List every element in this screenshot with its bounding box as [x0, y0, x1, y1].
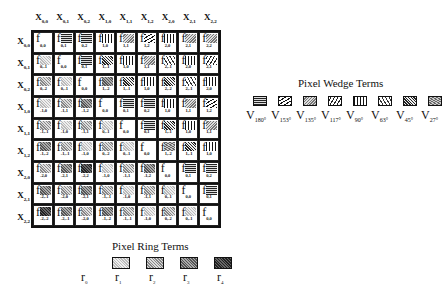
matrix-cell: f0,-1	[178, 205, 198, 226]
matrix-cell: f0,0	[95, 97, 115, 118]
wedge-label: V153°	[271, 108, 291, 123]
matrix-cell: f-2,2	[75, 162, 95, 183]
label-subscript: -1,1	[82, 129, 89, 134]
label-subscript: -2,1	[82, 194, 89, 199]
label-subscript: -1,0	[144, 216, 151, 221]
cell-term: f-2,0	[78, 206, 89, 224]
ring-label: r1	[115, 270, 122, 285]
matrix-cell: f-2,1	[75, 184, 95, 205]
label-subscript: 45°	[405, 117, 413, 123]
wedge-label: V135°	[296, 108, 316, 123]
cell-term: f1,2	[202, 97, 212, 115]
label-subscript: 2,-1	[165, 64, 172, 69]
matrix-cell: f0,-1	[33, 54, 53, 75]
label-subscript: 63°	[380, 117, 388, 123]
row-header: X1,0	[4, 102, 30, 114]
label-subscript: 2,1	[189, 19, 195, 24]
label-subscript: -1,-1	[102, 194, 111, 199]
matrix-cell: f1,-1	[178, 140, 198, 161]
matrix-cell: f2,-1	[178, 75, 198, 96]
wedge-label: V90°	[346, 108, 363, 123]
column-header: X0,2	[73, 12, 94, 24]
label-subscript: -1,1	[61, 108, 68, 113]
label-subscript: -1,-1	[61, 151, 70, 156]
matrix-cell: f-1,1	[54, 97, 74, 118]
cell-term: f1,1	[140, 54, 150, 72]
matrix-cell: f0,1	[178, 162, 198, 183]
cell-term: f-1,2	[78, 97, 89, 115]
cell-term: f0,0	[202, 206, 212, 224]
row-header: X0,0	[4, 36, 30, 48]
label-subscript: -1,1	[144, 194, 151, 199]
label-subscript: 2,2	[206, 43, 212, 48]
cell-term: f-2,-1	[36, 184, 49, 202]
cell-term: f-1,1	[119, 162, 130, 180]
cell-term: f0,2	[78, 32, 88, 50]
label-subscript: 2,2	[211, 19, 217, 24]
matrix-cell: f2,-1	[158, 54, 178, 75]
cell-term: f0,-2	[161, 206, 172, 224]
label-base: f	[78, 97, 82, 110]
label-subscript: 0,0	[165, 173, 171, 178]
label-subscript: 0,0	[102, 108, 108, 113]
wedge-label: V63°	[371, 108, 388, 123]
label-subscript: 2,0	[206, 86, 212, 91]
matrix-cell: f-1,1	[75, 119, 95, 140]
label-subscript: 1,0	[185, 129, 191, 134]
matrix-cell: f-1,-2	[95, 205, 115, 226]
label-subscript: 135°	[305, 117, 316, 123]
matrix-cell: f2,0	[158, 32, 178, 53]
label-base: V	[421, 108, 430, 122]
label-subscript: 1,2	[144, 43, 150, 48]
label-base: f	[78, 205, 82, 218]
cell-term: f-1,-1	[119, 206, 132, 224]
label-subscript: 0,-2	[40, 86, 47, 91]
matrix-cell: f-1,1	[116, 162, 136, 183]
ring-label: r2	[149, 270, 156, 285]
cell-term: f-2,-2	[36, 206, 49, 224]
label-subscript: 0,0	[185, 194, 191, 199]
cell-term: f0,2	[202, 162, 212, 180]
label-subscript: 2,0	[165, 43, 171, 48]
label-subscript: 1,0	[144, 86, 150, 91]
matrix-cell: f1,-2	[95, 75, 115, 96]
label-subscript: -2,0	[40, 173, 47, 178]
cell-term: f-1,-1	[98, 184, 111, 202]
label-base: V	[246, 108, 255, 122]
cell-term: f0,0	[78, 76, 88, 94]
label-subscript: 0,0	[61, 64, 67, 69]
label-base: V	[346, 108, 355, 122]
label-subscript: -1,2	[144, 173, 151, 178]
cell-term: f0,1	[78, 54, 88, 72]
label-subscript: 2,-2	[165, 86, 172, 91]
label-subscript: 0,2	[144, 108, 150, 113]
matrix-cell: f0,2	[75, 32, 95, 53]
label-subscript: 0,-1	[102, 129, 109, 134]
matrix-cell: f-1,-1	[33, 119, 53, 140]
column-header: X2,2	[200, 12, 221, 24]
label-subscript: 2	[153, 280, 156, 285]
label-subscript: 3	[187, 280, 190, 285]
cell-term: f0,2	[140, 97, 150, 115]
matrix-cell: f1,1	[178, 97, 198, 118]
label-subscript: -2,1	[61, 173, 68, 178]
label-subscript: 1,2	[24, 153, 30, 158]
row-header: X2,0	[4, 168, 30, 180]
cell-term: f2,-1	[181, 76, 192, 94]
cell-term: f0,-1	[161, 184, 172, 202]
matrix-cell: f1,-1	[95, 54, 115, 75]
cell-term: f-1,-2	[98, 206, 111, 224]
label-base: f	[78, 140, 82, 153]
matrix-cell: f-1,-2	[33, 140, 53, 161]
matrix-cell: f2,1	[178, 32, 198, 53]
matrix-cell: f-2,-2	[33, 205, 53, 226]
label-base: f	[78, 75, 82, 88]
label-subscript: 0,-1	[185, 216, 192, 221]
label-base: V	[296, 108, 305, 122]
matrix-cell: f-1,0	[116, 184, 136, 205]
ring-label: r3	[183, 270, 190, 285]
matrix-cell: f0,2	[199, 162, 219, 183]
label-base: V	[271, 108, 280, 122]
label-subscript: 0,-1	[123, 151, 130, 156]
ring-label: r4	[217, 270, 224, 285]
